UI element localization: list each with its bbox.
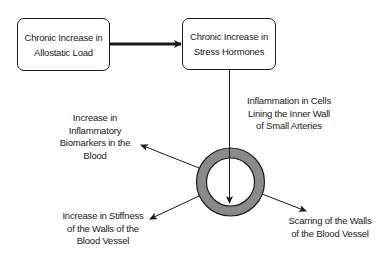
node-stress-hormones-text: Chronic Increase in Stress Hormones [190, 29, 268, 59]
label-inflammation-cells: Inflammation in Cells Lining the Inner W… [236, 95, 342, 133]
diagram-canvas: Chronic Increase in Allostatic Load Chro… [0, 0, 379, 255]
arrow-to-biomarkers [141, 145, 199, 168]
label-scarring: Scarring of the Walls of the Blood Vesse… [282, 215, 378, 240]
arrow-to-scarring [262, 194, 306, 211]
blood-vessel-icon [197, 148, 265, 216]
node-stress-hormones: Chronic Increase in Stress Hormones [182, 18, 276, 70]
arrow-to-stiffness [150, 196, 199, 219]
node-allostatic-load-text: Chronic Increase in Allostatic Load [24, 30, 102, 60]
label-inflammatory-biomarkers: Increase in Inflammatory Biomarkers in t… [55, 112, 135, 162]
label-stiffness: Increase in Stiffness of the Walls of th… [55, 210, 151, 248]
node-allostatic-load: Chronic Increase in Allostatic Load [17, 18, 110, 71]
